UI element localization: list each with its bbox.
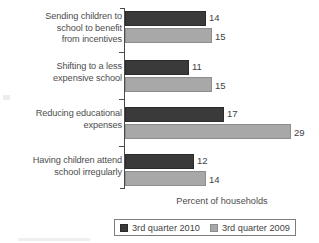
bar-chart: Sending children to school to benefit fr… [0,0,319,243]
bar-row: 15 [125,28,319,43]
legend-swatch-icon-2009 [210,224,218,232]
legend-swatch-icon-2010 [120,224,128,232]
bar-2010 [125,107,224,122]
bar-2009 [125,124,291,139]
bar-value-2009: 15 [215,31,226,42]
bar-row: 14 [125,11,319,26]
bar-2009 [125,77,212,92]
bar-row: 12 [125,154,319,169]
bars-reducing-expenses: 17 29 [125,107,319,139]
category-label-line: school to benefit [4,23,122,35]
category-label-sending-children: Sending children to school to benefit fr… [4,11,122,46]
axis-tick-3 [119,146,125,147]
bar-value-2010: 12 [197,155,208,166]
plot-area: Sending children to school to benefit fr… [0,0,319,193]
bar-value-2009: 15 [215,80,226,91]
scan-artifact [3,95,10,100]
x-axis-title: Percent of households [125,196,319,206]
bar-value-2010: 14 [209,12,220,23]
category-label-line: from incentives [4,34,122,46]
bar-row: 29 [125,124,319,139]
bar-value-2010: 11 [192,61,202,72]
category-label-line: Reducing educational [4,108,122,120]
bar-2010 [125,60,189,75]
legend-label-2009: 3rd quarter 2009 [222,223,290,233]
scan-artifact [18,238,90,241]
bar-2009 [125,171,206,186]
axis-tick-1 [119,52,125,53]
bar-row: 11 [125,60,319,75]
bar-2009 [125,28,212,43]
bar-row: 14 [125,171,319,186]
bar-value-2010: 17 [227,108,238,119]
bars-attend-irregularly: 12 14 [125,154,319,186]
bars-shifting-school: 11 15 [125,60,319,92]
bar-2010 [125,11,206,26]
bar-row: 15 [125,77,319,92]
bar-value-2009: 14 [209,174,220,185]
bar-2010 [125,154,194,169]
category-label-line: Sending children to [4,11,122,23]
category-label-line: Having children attend [4,155,122,167]
axis-bottom-cap [120,188,125,189]
category-label-line: Shifting to a less [4,61,122,73]
bar-row: 17 [125,107,319,122]
legend-item-2010[interactable]: 3rd quarter 2010 [120,223,200,233]
bars-sending-children: 14 15 [125,11,319,43]
category-label-line: expensive school [4,73,122,85]
legend-label-2010: 3rd quarter 2010 [132,223,200,233]
axis-tick-2 [119,99,125,100]
category-label-line: expenses [4,120,122,132]
bar-value-2009: 29 [294,127,305,138]
category-label-attend-irregularly: Having children attend school irregularl… [4,155,122,178]
category-label-reducing-expenses: Reducing educational expenses [4,108,122,131]
axis-top-cap [120,8,125,9]
category-label-shifting-school: Shifting to a less expensive school [4,61,122,84]
chart-legend: 3rd quarter 2010 3rd quarter 2009 [114,219,296,236]
legend-item-2009[interactable]: 3rd quarter 2009 [210,223,290,233]
category-label-line: school irregularly [4,167,122,179]
